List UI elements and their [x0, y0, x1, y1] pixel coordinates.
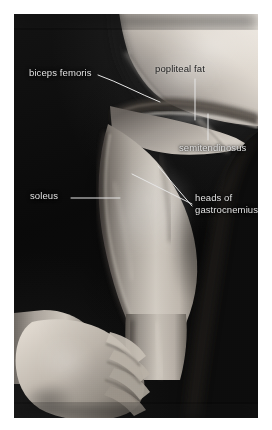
- leader-gastroc-medial: [132, 174, 192, 204]
- annotation-layer: biceps femoris popliteal fat semitendino…: [14, 14, 258, 418]
- label-heads-of-gastrocnemius-line1: heads of: [195, 192, 232, 203]
- photograph-plate: biceps femoris popliteal fat semitendino…: [14, 14, 258, 418]
- label-soleus: soleus: [30, 190, 58, 202]
- label-popliteal-fat: popliteal fat: [155, 63, 205, 75]
- leader-biceps-femoris: [98, 75, 160, 102]
- label-heads-of-gastrocnemius: heads ofgastrocnemius: [195, 192, 258, 215]
- label-heads-of-gastrocnemius-line2: gastrocnemius: [195, 204, 258, 215]
- anatomical-figure: biceps femoris popliteal fat semitendino…: [0, 0, 272, 430]
- leader-gastroc-lateral: [158, 166, 192, 206]
- label-biceps-femoris: biceps femoris: [29, 67, 92, 79]
- label-semitendinosus: semitendinosus: [179, 142, 246, 154]
